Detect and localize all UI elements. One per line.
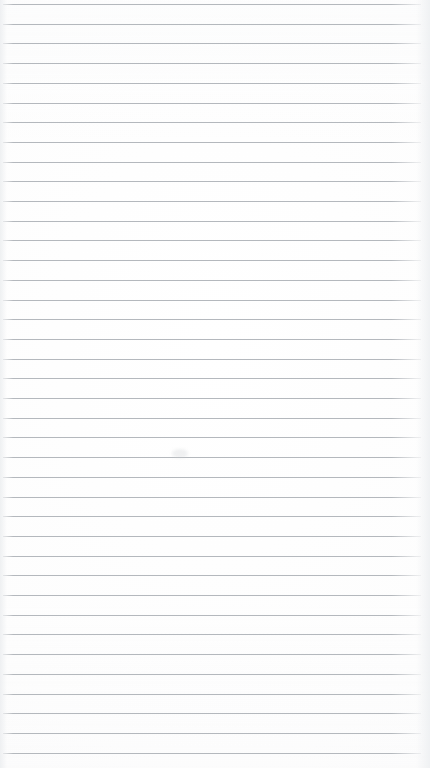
- rule-line: [3, 63, 421, 64]
- rule-line: [3, 556, 421, 557]
- rule-line: [3, 162, 421, 163]
- rule-line: [3, 359, 421, 360]
- rule-line: [3, 674, 421, 675]
- rule-line: [3, 418, 421, 419]
- rule-line: [3, 437, 421, 438]
- rule-line: [3, 142, 421, 143]
- rule-line: [3, 240, 421, 241]
- rule-line: [3, 24, 421, 25]
- rule-line: [3, 753, 421, 754]
- rule-line: [3, 654, 421, 655]
- rule-line: [3, 319, 421, 320]
- rule-line: [3, 733, 421, 734]
- rule-line: [3, 280, 421, 281]
- ruled-lines-group: [0, 0, 430, 768]
- rule-line: [3, 181, 421, 182]
- rule-line: [3, 634, 421, 635]
- rule-line: [3, 516, 421, 517]
- rule-line: [3, 201, 421, 202]
- rule-line: [3, 83, 421, 84]
- rule-line: [3, 575, 421, 576]
- rule-line: [3, 615, 421, 616]
- rule-line: [3, 260, 421, 261]
- rule-line: [3, 300, 421, 301]
- rule-line: [3, 4, 421, 5]
- rule-line: [3, 221, 421, 222]
- rule-line: [3, 497, 421, 498]
- notebook-page: [0, 0, 430, 768]
- rule-line: [3, 457, 421, 458]
- rule-line: [3, 398, 421, 399]
- rule-line: [3, 339, 421, 340]
- rule-line: [3, 122, 421, 123]
- rule-line: [3, 536, 421, 537]
- rule-line: [3, 595, 421, 596]
- rule-line: [3, 477, 421, 478]
- rule-line: [3, 43, 421, 44]
- rule-line: [3, 694, 421, 695]
- rule-line: [3, 103, 421, 104]
- rule-line: [3, 378, 421, 379]
- rule-line: [3, 713, 421, 714]
